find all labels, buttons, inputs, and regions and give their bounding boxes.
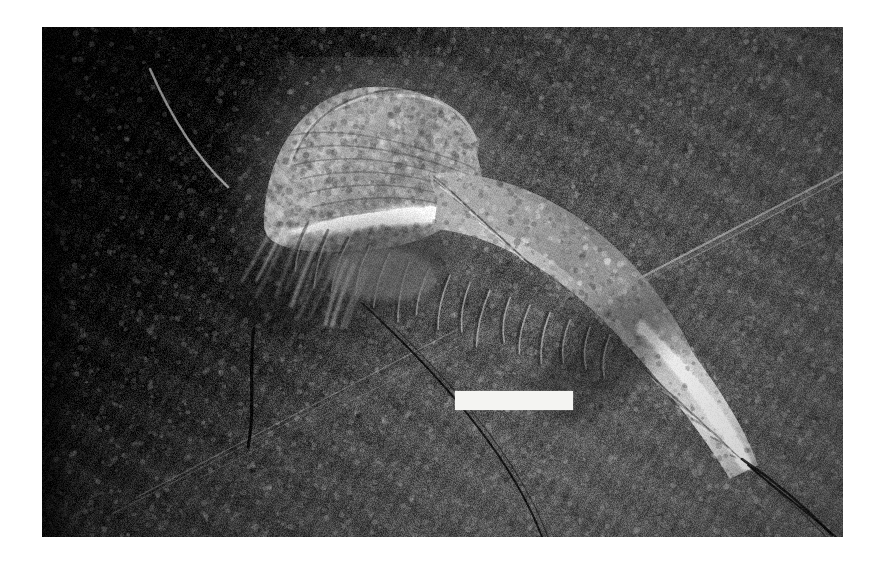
fossil-photograph-plate (42, 27, 843, 537)
page-root (0, 0, 881, 562)
scale-bar (455, 391, 573, 410)
fossil-photograph-canvas (42, 27, 843, 537)
